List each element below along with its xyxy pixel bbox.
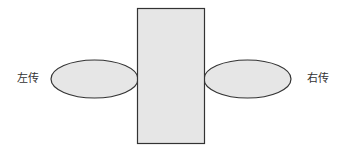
right-label: 右传 (307, 73, 329, 84)
center-rectangle (138, 9, 205, 144)
diagram-canvas (0, 0, 345, 155)
left-label: 左传 (17, 73, 39, 84)
right-ellipse (204, 60, 291, 98)
left-ellipse (51, 60, 138, 98)
